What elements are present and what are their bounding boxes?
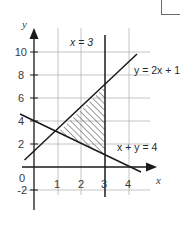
y-tick-label: 2	[18, 138, 24, 150]
x-axis-arrow-icon	[146, 163, 157, 172]
label-x-equals-3: x = 3	[69, 36, 93, 48]
x-tick-label: 4	[125, 178, 131, 190]
y-axis-label: y	[21, 18, 27, 30]
x-tick-label: 3	[101, 178, 107, 190]
x-axis-label: x	[155, 174, 161, 186]
label-x-plus-y-equals-4: x + y = 4	[117, 141, 157, 153]
y-tick-label: 6	[18, 92, 24, 104]
graph: 10 8 6 4 2 -2 0 1 2 3 4 y x x = 3 y = 2x…	[0, 0, 180, 226]
origin-label: 0	[19, 172, 25, 184]
y-tick-label: 4	[18, 115, 24, 127]
label-y-equals-2x-plus-1: y = 2x + 1	[134, 64, 180, 76]
y-axis-arrow-icon	[30, 28, 39, 39]
y-tick-label: 8	[18, 69, 24, 81]
y-tick-label: -2	[17, 184, 27, 196]
x-tick-label: 2	[78, 178, 84, 190]
y-tick-label: 10	[15, 46, 27, 58]
x-tick-label: 1	[54, 178, 60, 190]
